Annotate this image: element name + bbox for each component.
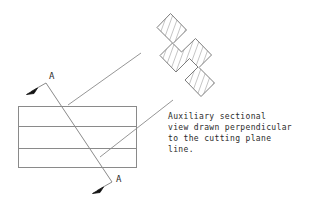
front-view-outline [19,107,137,168]
cut-label-a-bottom: A [116,174,122,184]
note-line-3: to the cutting plane [168,134,271,143]
section-hatch-fill [150,5,225,105]
note-line-4: line. [168,145,194,154]
cutting-plane-arrow-top [27,88,38,95]
technical-drawing-canvas: A A Auxiliary sectional view drawn perpe… [0,0,317,221]
section-hatching [150,5,225,105]
note-block: Auxiliary sectional view drawn perpendic… [168,112,292,154]
auxiliary-section-ibeam [150,5,225,105]
note-line-1: Auxiliary sectional [168,112,266,121]
drawing-svg: A A Auxiliary sectional view drawn perpe… [0,0,317,221]
cut-label-a-top: A [49,71,55,81]
front-view-rectangle [19,107,137,168]
note-line-2: view drawn perpendicular [168,123,292,132]
cutting-plane-arrow-bottom [93,187,104,194]
leader-upper [68,53,141,105]
